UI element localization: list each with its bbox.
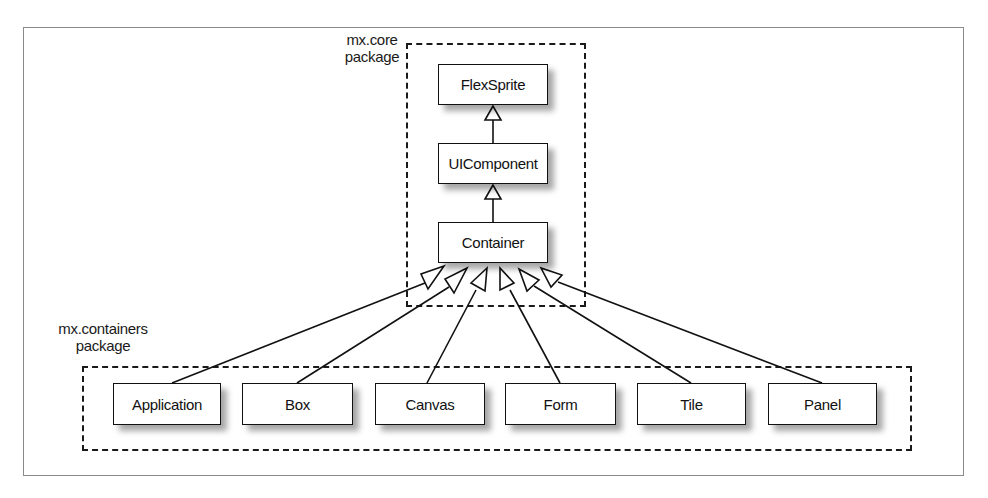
class-flexsprite: FlexSprite [438, 64, 548, 105]
generalization-arrowhead-icon [471, 268, 487, 291]
class-name: Panel [804, 396, 841, 413]
edge-canvas-container [427, 290, 476, 383]
edge-panel-container [558, 282, 822, 383]
class-box: Box [242, 383, 353, 425]
class-name: Tile [680, 396, 702, 413]
edge-box-container [297, 287, 449, 383]
class-form: Form [505, 383, 616, 425]
generalization-arrowhead-icon [445, 268, 467, 293]
edge-tile-container [534, 286, 691, 383]
generalization-arrowhead-icon [485, 185, 501, 199]
generalization-arrowhead-icon [421, 266, 444, 289]
generalization-arrowhead-icon [485, 106, 501, 120]
class-panel: Panel [768, 383, 877, 425]
class-name: Box [285, 396, 310, 413]
edge-application-container [172, 283, 425, 383]
edge-form-container [510, 290, 560, 383]
generalization-arrowhead-icon [541, 268, 562, 287]
class-uicomponent: UIComponent [438, 143, 548, 184]
class-name: UIComponent [448, 155, 537, 172]
class-name: Application [132, 396, 202, 413]
class-application: Application [113, 383, 221, 425]
class-name: Container [462, 234, 524, 251]
class-name: Canvas [405, 396, 454, 413]
class-tile: Tile [637, 383, 746, 425]
class-canvas: Canvas [375, 383, 485, 425]
class-container: Container [438, 222, 548, 263]
class-name: Form [544, 396, 578, 413]
class-name: FlexSprite [461, 76, 526, 93]
generalization-arrowhead-icon [500, 268, 514, 290]
